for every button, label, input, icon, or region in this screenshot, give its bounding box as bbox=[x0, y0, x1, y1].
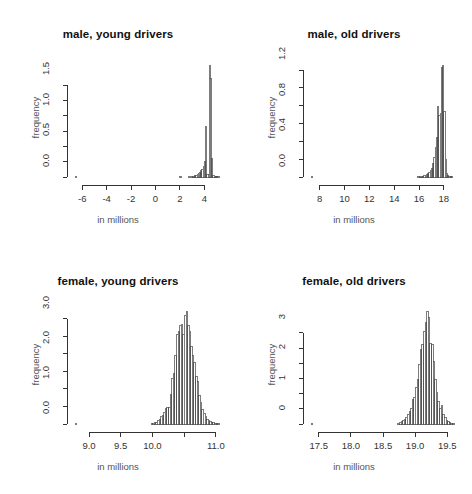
y-tick-label: 1.2 bbox=[276, 38, 287, 70]
histogram-bar bbox=[452, 424, 454, 425]
x-tick-label: 14 bbox=[389, 193, 400, 204]
histogram-bar bbox=[311, 424, 313, 425]
y-tick-label: 0.0 bbox=[276, 145, 287, 177]
x-tick-label: 19.5 bbox=[438, 440, 457, 451]
histogram-bar bbox=[75, 424, 77, 425]
x-tick-label: -2 bbox=[127, 193, 135, 204]
histogram-bars bbox=[75, 312, 219, 425]
x-tick-label: 10.0 bbox=[143, 440, 162, 451]
histogram-bar bbox=[188, 177, 189, 178]
y-tick-label: 2.0 bbox=[40, 321, 51, 353]
y-tick-label: 2 bbox=[276, 331, 287, 363]
x-tick-label: 18.0 bbox=[342, 440, 361, 451]
x-tick-label: 12 bbox=[364, 193, 375, 204]
histogram-figure: male, young driversin millionsfrequency-… bbox=[0, 0, 472, 494]
y-tick-label: 0.5 bbox=[40, 114, 51, 146]
x-tick-label: 17.5 bbox=[309, 440, 328, 451]
plot-area bbox=[0, 0, 236, 247]
histogram-bar bbox=[218, 177, 219, 178]
x-tick-label: 0 bbox=[153, 193, 158, 204]
y-tick-label: 0.0 bbox=[40, 392, 51, 424]
histogram-bars bbox=[311, 66, 453, 178]
histogram-bar bbox=[212, 158, 213, 177]
y-tick-label: 3 bbox=[276, 300, 287, 332]
y-tick-label: 3.0 bbox=[40, 286, 51, 318]
y-tick-label: 1.0 bbox=[40, 83, 51, 115]
x-tick-label: -6 bbox=[78, 193, 86, 204]
histogram-bar bbox=[311, 177, 312, 178]
x-tick-label: 2 bbox=[177, 193, 182, 204]
plot-area bbox=[236, 0, 472, 247]
x-tick-label: 9.5 bbox=[114, 440, 127, 451]
y-tick-label: 0 bbox=[276, 392, 287, 424]
x-tick-label: 8 bbox=[317, 193, 322, 204]
plot-area bbox=[0, 247, 236, 494]
y-tick-label: 1 bbox=[276, 361, 287, 393]
x-tick-label: 4 bbox=[202, 193, 207, 204]
x-tick-label: 9.0 bbox=[82, 440, 95, 451]
plot-area bbox=[236, 247, 472, 494]
panel-female-old-drivers: female, old driversin millionsfrequency1… bbox=[236, 247, 472, 494]
histogram-bar bbox=[206, 127, 207, 177]
x-tick-label: 11.0 bbox=[207, 440, 225, 451]
x-tick-label: 10 bbox=[339, 193, 350, 204]
x-tick-label: 18 bbox=[439, 193, 450, 204]
histogram-bar bbox=[75, 177, 76, 178]
y-tick-label: 0.4 bbox=[276, 109, 287, 141]
y-tick-label: 1.0 bbox=[40, 356, 51, 388]
y-tick-label: 0.8 bbox=[276, 73, 287, 105]
histogram-bar bbox=[180, 177, 181, 178]
histogram-bar bbox=[218, 424, 220, 425]
x-tick-label: -4 bbox=[102, 193, 110, 204]
x-tick-label: 16 bbox=[414, 193, 425, 204]
histogram-bars bbox=[311, 312, 454, 425]
panel-male-young-drivers: male, young driversin millionsfrequency-… bbox=[0, 0, 236, 247]
x-tick-label: 18.5 bbox=[374, 440, 393, 451]
y-tick-label: 1.5 bbox=[40, 53, 51, 85]
panel-male-old-drivers: male, old driversin millionsfrequency810… bbox=[236, 0, 472, 247]
y-tick-label: 0.0 bbox=[40, 145, 51, 177]
histogram-bar bbox=[451, 177, 452, 178]
histogram-bars bbox=[75, 65, 219, 177]
panel-female-young-drivers: female, young driversin millionsfrequenc… bbox=[0, 247, 236, 494]
x-tick-label: 19.0 bbox=[406, 440, 425, 451]
